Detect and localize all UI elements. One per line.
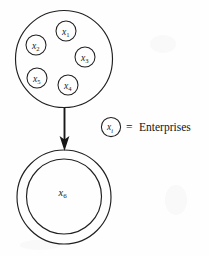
diagram-svg: x1 x2 x3 x4 x5 x6 xi bbox=[0, 0, 209, 256]
member-label-x3: x3 bbox=[80, 52, 89, 64]
member-label-x4: x4 bbox=[63, 80, 72, 92]
figure-canvas: x1 x2 x3 x4 x5 x6 xi bbox=[0, 0, 209, 256]
downward-arrow bbox=[60, 108, 70, 151]
bottom-label-x6: x6 bbox=[58, 187, 68, 201]
legend: xi = Enterprises bbox=[101, 117, 191, 136]
member-label-x1: x1 bbox=[61, 26, 70, 38]
member-node-x5: x5 bbox=[27, 68, 47, 88]
member-node-x4: x4 bbox=[58, 75, 78, 95]
member-node-x3: x3 bbox=[75, 47, 95, 67]
legend-meaning-text: Enterprises bbox=[139, 121, 191, 134]
legend-equals-sign: = bbox=[126, 121, 133, 133]
legend-symbol-label: xi bbox=[106, 122, 113, 133]
member-label-x2: x2 bbox=[31, 40, 40, 52]
member-node-x1: x1 bbox=[56, 21, 76, 41]
member-label-x5: x5 bbox=[32, 73, 41, 85]
member-node-x2: x2 bbox=[26, 35, 46, 55]
